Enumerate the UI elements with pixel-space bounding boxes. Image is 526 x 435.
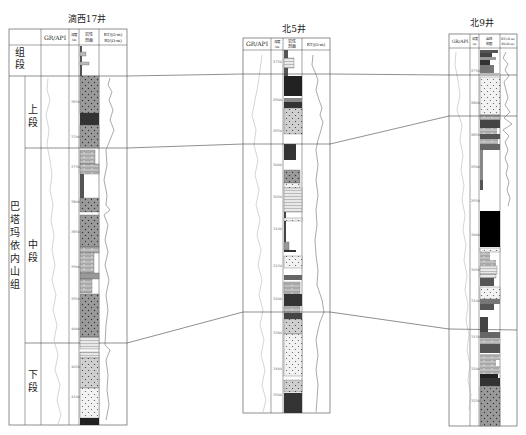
well-1-gr-header: GR/API bbox=[44, 34, 67, 41]
well-3-lithology bbox=[480, 50, 500, 426]
svg-text:3200: 3200 bbox=[273, 297, 282, 301]
well-3-gr-header: GR/API bbox=[452, 39, 469, 44]
svg-text:3000: 3000 bbox=[471, 233, 480, 237]
well-3-rt-header: RT/(Ω·m) bbox=[501, 37, 515, 41]
svg-text:3000: 3000 bbox=[273, 163, 282, 167]
well-3-title: 北9井 bbox=[470, 17, 494, 28]
svg-text:剖面: 剖面 bbox=[85, 37, 93, 43]
svg-text:深度: 深度 bbox=[472, 36, 478, 41]
well-1-rt-curve bbox=[104, 78, 114, 420]
svg-text:2950: 2950 bbox=[273, 129, 282, 133]
well-3-gr-curve bbox=[455, 52, 471, 410]
well-2-gr-header: GR/API bbox=[246, 40, 269, 47]
well-1-rt-header: RT/(Ω·m) bbox=[104, 32, 123, 37]
formation-label: 巴塔玛依内山组 bbox=[10, 201, 20, 290]
svg-text:3150: 3150 bbox=[471, 335, 480, 339]
svg-text:3650: 3650 bbox=[71, 100, 80, 104]
svg-text:3050: 3050 bbox=[471, 268, 480, 272]
svg-text:3700: 3700 bbox=[71, 135, 80, 139]
svg-text:3100: 3100 bbox=[273, 227, 282, 231]
well-3-depth-ticks: 2750 2800 2850 2900 2950 3000 3050 3100 … bbox=[471, 69, 480, 403]
strat-header-2: 段 bbox=[15, 58, 25, 70]
well-1-depth-ticks: 3650 3700 3750 3800 3850 3900 3950 4000 … bbox=[71, 100, 80, 399]
member-upper: 上段 bbox=[28, 104, 38, 128]
svg-text:岩性: 岩性 bbox=[486, 36, 493, 41]
well-2: 北5井 GR/API 深度 /m 岩性 剖面 RT/(Ω·m) bbox=[243, 23, 330, 413]
svg-text:3800: 3800 bbox=[71, 200, 80, 204]
svg-text:2900: 2900 bbox=[471, 165, 480, 169]
well-correlation-diagram: 滴西17井 组 段 GR/API 深度 /m 岩性 剖面 RT/(Ω·m) RI… bbox=[0, 0, 526, 435]
svg-text:2950: 2950 bbox=[471, 199, 480, 203]
svg-text:3300: 3300 bbox=[273, 331, 282, 335]
well-1-ri-header: RI/(Ω·m) bbox=[104, 38, 122, 43]
well-1-frame bbox=[9, 29, 127, 425]
well-2-rt-header: RT/(Ω·m) bbox=[307, 42, 326, 47]
member-lower: 下段 bbox=[28, 369, 38, 393]
well-2-depth-ticks: 2750 2900 2950 3000 3050 3100 3150 3200 … bbox=[273, 60, 282, 397]
svg-text:3250: 3250 bbox=[471, 399, 480, 403]
well-1-gr-curve bbox=[46, 78, 61, 424]
svg-text:剖面: 剖面 bbox=[288, 43, 296, 49]
svg-text:2900: 2900 bbox=[273, 98, 282, 102]
top-formation-line bbox=[127, 74, 517, 76]
svg-text:3900: 3900 bbox=[71, 265, 80, 269]
svg-text:2850: 2850 bbox=[471, 133, 480, 137]
svg-text:3150: 3150 bbox=[273, 264, 282, 268]
well-2-rt-curve bbox=[312, 55, 324, 412]
well-1-title: 滴西17井 bbox=[68, 13, 106, 24]
svg-text:/m: /m bbox=[275, 45, 280, 49]
well-3: 北9井 GR/API 深度 /m 岩性 剖面 RT/(Ω·m) RI/(Ω·m) bbox=[449, 17, 517, 426]
svg-text:3200: 3200 bbox=[471, 367, 480, 371]
svg-text:剖面: 剖面 bbox=[486, 41, 493, 46]
well-2-title: 北5井 bbox=[282, 23, 306, 34]
svg-text:2750: 2750 bbox=[273, 60, 282, 64]
upper-middle-boundary bbox=[127, 116, 517, 148]
well-2-gr-curve bbox=[252, 55, 266, 412]
svg-text:3500: 3500 bbox=[273, 393, 282, 397]
svg-text:岩性: 岩性 bbox=[85, 31, 93, 37]
svg-text:3100: 3100 bbox=[471, 299, 480, 303]
svg-text:3850: 3850 bbox=[71, 230, 80, 234]
svg-text:/m: /m bbox=[473, 42, 477, 46]
well-3-ri-header: RI/(Ω·m) bbox=[501, 42, 514, 46]
svg-text:3750: 3750 bbox=[71, 165, 80, 169]
well-2-lithology bbox=[284, 50, 302, 413]
svg-text:3050: 3050 bbox=[273, 195, 282, 199]
svg-text:/m: /m bbox=[72, 38, 77, 42]
well-1-lithology bbox=[80, 46, 99, 425]
svg-text:3950: 3950 bbox=[71, 297, 80, 301]
svg-text:2750: 2750 bbox=[471, 69, 480, 73]
svg-text:深度: 深度 bbox=[274, 39, 281, 44]
svg-text:4000: 4000 bbox=[71, 327, 80, 331]
svg-text:2800: 2800 bbox=[471, 101, 480, 105]
member-middle: 中段 bbox=[28, 238, 38, 263]
strat-header-1: 组 bbox=[15, 46, 25, 58]
svg-text:4100: 4100 bbox=[71, 395, 80, 399]
svg-text:3400: 3400 bbox=[273, 367, 282, 371]
svg-text:4050: 4050 bbox=[71, 365, 80, 369]
well-1: 滴西17井 组 段 GR/API 深度 /m 岩性 剖面 RT/(Ω·m) RI… bbox=[9, 13, 127, 425]
svg-text:深度: 深度 bbox=[71, 32, 78, 37]
